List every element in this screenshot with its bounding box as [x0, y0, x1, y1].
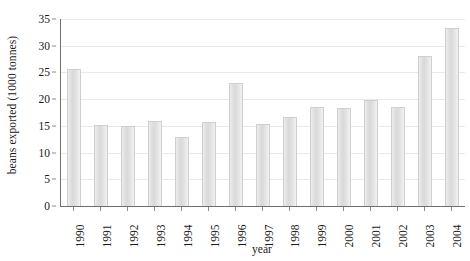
bar-slot: [357, 19, 384, 206]
y-tick-mark: [52, 99, 56, 100]
y-tick-label: 35: [39, 13, 51, 25]
bar-slot: [303, 19, 330, 206]
x-tick-mark: [262, 207, 263, 211]
bar: [229, 83, 243, 206]
bar: [337, 108, 351, 206]
bar-series: [61, 19, 465, 206]
y-tick-label: 0: [44, 200, 50, 212]
bar-slot: [384, 19, 411, 206]
x-tick-mark: [370, 207, 371, 211]
bar-slot: [330, 19, 357, 206]
bar-slot: [61, 19, 88, 206]
y-tick-mark: [52, 45, 56, 46]
bar-slot: [115, 19, 142, 206]
x-tick-mark: [73, 207, 74, 211]
x-axis-title: year: [60, 243, 464, 255]
bar: [256, 124, 270, 206]
y-tick-mark: [52, 72, 56, 73]
y-tick-label: 25: [39, 66, 51, 78]
x-tick-mark: [100, 207, 101, 211]
y-tick-label: 5: [44, 173, 50, 185]
x-tick-mark: [316, 207, 317, 211]
x-tick-mark: [451, 207, 452, 211]
y-tick-mark: [52, 152, 56, 153]
x-tick-mark: [343, 207, 344, 211]
bar: [175, 137, 189, 206]
bar-slot: [276, 19, 303, 206]
bar-slot: [250, 19, 277, 206]
y-tick-label: 10: [39, 147, 51, 159]
bar-slot: [88, 19, 115, 206]
bar: [67, 69, 81, 206]
x-tick-mark: [181, 207, 182, 211]
x-tick-mark: [289, 207, 290, 211]
bar: [283, 117, 297, 206]
bar-slot: [169, 19, 196, 206]
bar-slot: [438, 19, 465, 206]
bar: [445, 28, 459, 206]
y-axis-title: beans exported (1000 tonnes): [0, 0, 24, 210]
y-axis-title-text: beans exported (1000 tonnes): [6, 36, 18, 175]
x-tick-mark: [127, 207, 128, 211]
x-tick-mark: [208, 207, 209, 211]
y-tick-label: 30: [39, 40, 51, 52]
y-tick-mark: [52, 179, 56, 180]
bar-slot: [142, 19, 169, 206]
y-tick-label: 15: [39, 120, 51, 132]
y-tick-mark: [52, 206, 56, 207]
bar-chart-figure: beans exported (1000 tonnes) 05101520253…: [0, 0, 470, 261]
bar: [391, 107, 405, 206]
y-tick-mark: [52, 19, 56, 20]
bar: [121, 126, 135, 206]
y-axis-ticks: 05101520253035: [24, 0, 56, 230]
bar: [94, 125, 108, 206]
bar-slot: [223, 19, 250, 206]
bar-slot: [196, 19, 223, 206]
y-tick-label: 20: [39, 93, 51, 105]
bar-slot: [411, 19, 438, 206]
bar: [202, 122, 216, 206]
bar: [310, 107, 324, 206]
plot-area: [60, 19, 465, 207]
bar: [148, 121, 162, 206]
bar: [364, 100, 378, 206]
x-tick-mark: [424, 207, 425, 211]
x-tick-mark: [154, 207, 155, 211]
bar: [418, 56, 432, 206]
x-tick-mark: [397, 207, 398, 211]
y-tick-mark: [52, 125, 56, 126]
x-tick-mark: [235, 207, 236, 211]
